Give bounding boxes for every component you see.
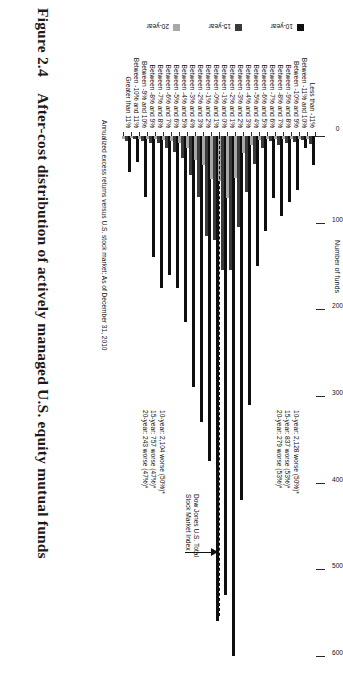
category-label: Between -3% and 2%: [237, 65, 244, 128]
bar-15-year-7: [253, 136, 256, 164]
bar-15-year-23: [125, 136, 128, 141]
bar-10-year-4: [280, 136, 283, 216]
bar-10-year-19: [160, 136, 163, 288]
benchmark-dashed-line: [219, 136, 220, 616]
category-label: Between -8% and 7%: [277, 65, 284, 128]
category-label: Between -5% and 6%: [173, 65, 180, 128]
category-label-column: Less than -11%Between -11% and 10%Betwee…: [124, 40, 316, 132]
bar-15-year-19: [157, 136, 160, 143]
category-label: Between -0% and 1%: [213, 65, 220, 128]
legend-label-10-year: 10-year: [271, 23, 293, 30]
bar-10-year-15: [192, 136, 195, 387]
bar-15-year-10: [229, 136, 232, 270]
bar-10-year-5: [272, 136, 275, 198]
bar-20-year-16: [178, 136, 181, 143]
bar-10-year-16: [184, 136, 187, 322]
below-benchmark-line-2: 15-year: 757 worse (47%)*: [149, 410, 158, 494]
annotation-above-benchmark: 10-year: 2,128 worse (50%)*15-year: 837 …: [274, 410, 300, 494]
category-label: Between -8% and 9%: [149, 65, 156, 128]
y-axis-description: Annualized excess returns versus U.S. st…: [101, 120, 108, 351]
bar-15-year-0: [309, 136, 312, 144]
legend-swatch-10-year: [298, 24, 305, 31]
category-label: Between -1% and 0%: [221, 65, 228, 128]
bar-10-year-10: [232, 136, 235, 656]
bar-15-year-6: [261, 136, 264, 148]
bar-10-year-20: [152, 136, 155, 257]
x-tick-300: [316, 396, 325, 397]
bar-10-year-17: [176, 136, 179, 288]
bar-15-year-15: [189, 136, 192, 175]
category-label: Between -9% and 8%: [285, 65, 292, 128]
category-label: Between -4% and 3%: [245, 65, 252, 128]
category-label: Between -6% and 7%: [165, 65, 172, 128]
x-tick-200: [316, 309, 325, 310]
bar-10-year-8: [248, 136, 251, 405]
bar-10-year-13: [208, 136, 211, 461]
category-label: Between -7% and 6%: [269, 65, 276, 128]
bar-20-year-23: [122, 136, 125, 139]
bar-15-year-21: [141, 136, 144, 141]
bar-10-year-6: [264, 136, 267, 231]
below-benchmark-line-3: 20-year: 243 worse (47%)*: [140, 410, 149, 494]
category-label: Between -10% and 9%: [293, 61, 300, 128]
bar-20-year-15: [186, 136, 189, 148]
category-label: Between -11% and 10%: [301, 58, 308, 128]
x-tick-label-500: 500: [332, 562, 343, 569]
category-label: Between -2% and 3%: [197, 65, 204, 128]
bar-15-year-22: [133, 136, 136, 139]
above-benchmark-line-1: 10-year: 2,128 worse (50%)*: [291, 410, 300, 494]
bar-20-year-5: [266, 136, 269, 139]
x-tick-100: [316, 223, 325, 224]
bar-20-year-9: [234, 136, 237, 178]
benchmark-label-line-1: Dow Jones U.S. Total: [192, 494, 200, 557]
bar-20-year-6: [258, 136, 261, 140]
bar-20-year-20: [146, 136, 149, 139]
bar-10-year-18: [168, 136, 171, 275]
above-benchmark-line-3: 20-year: 279 worse (53%)*: [274, 410, 283, 494]
category-label: Between -1% and 2%: [205, 65, 212, 128]
bar-10-year-22: [136, 136, 139, 162]
bar-20-year-0: [306, 136, 309, 139]
bar-15-year-9: [237, 136, 240, 227]
category-label: Greater than 11%: [125, 76, 132, 128]
x-tick-label-0: 0: [336, 125, 340, 132]
bar-20-year-19: [154, 136, 157, 139]
bar-20-year-1: [298, 136, 301, 139]
above-benchmark-line-2: 15-year: 837 worse (53%)*: [283, 410, 292, 494]
bar-15-year-16: [181, 136, 184, 158]
bar-15-year-8: [245, 136, 248, 192]
category-label: Between -9% and 10%: [141, 61, 148, 128]
bar-20-year-21: [138, 136, 141, 139]
below-benchmark-line-1: 10-year: 2,104 worse (50%)*: [157, 410, 166, 494]
bar-15-year-3: [285, 136, 288, 143]
x-tick-label-400: 400: [332, 476, 343, 483]
legend-label-20-year: 20-year: [147, 23, 169, 30]
bar-20-year-17: [170, 136, 173, 141]
legend-swatch-20-year: [174, 24, 181, 31]
annotation-below-benchmark: 10-year: 2,104 worse (50%)*15-year: 757 …: [140, 410, 166, 494]
bar-20-year-13: [202, 136, 205, 165]
benchmark-label-line-2: Stock Market Index: [183, 494, 191, 557]
legend-swatch-15-year: [236, 24, 243, 31]
figure-caption: Figure 2.4After-cost distribution of act…: [34, 8, 52, 688]
category-label: Between -6% and 5%: [261, 65, 268, 128]
legend-label-15-year: 15-year: [209, 23, 231, 30]
bar-15-year-20: [149, 136, 152, 143]
bar-20-year-8: [242, 136, 245, 153]
bar-15-year-1: [301, 136, 304, 140]
category-label: Between -5% and 4%: [253, 65, 260, 128]
category-label: Between -4% and 5%: [181, 65, 188, 128]
bar-15-year-4: [277, 136, 280, 145]
bar-10-year-2: [296, 136, 299, 190]
category-label: Between -7% and 8%: [157, 65, 164, 128]
bar-15-year-17: [173, 136, 176, 152]
bar-20-year-10: [226, 136, 229, 198]
x-tick-500: [316, 569, 325, 570]
category-label: Between -2% and 1%: [229, 65, 236, 128]
bar-15-year-18: [165, 136, 168, 148]
x-tick-600: [316, 656, 325, 657]
bar-20-year-18: [162, 136, 165, 140]
bar-10-year-21: [144, 136, 147, 197]
